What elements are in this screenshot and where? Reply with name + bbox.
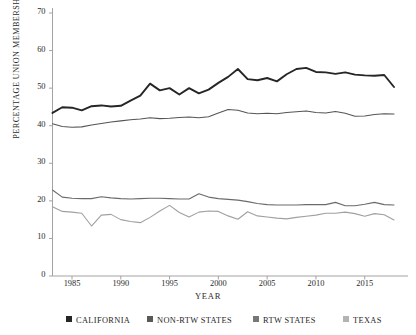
x-tick-label: 1995 [150,279,190,288]
legend-label: RTW STATES [263,316,316,325]
x-tick-label: 1990 [101,279,141,288]
legend-item-rtw-states[interactable]: RTW STATES [253,316,316,325]
y-tick-label: 60 [20,45,46,54]
y-tick-label: 50 [20,82,46,91]
series-line-rtw-states [53,190,395,206]
legend-swatch-icon [343,316,349,322]
x-tick-label: 2000 [198,279,238,288]
y-tick-label: 0 [20,270,46,279]
legend-item-texas[interactable]: TEXAS [343,316,382,325]
x-tick-label: 2015 [345,279,385,288]
series-line-texas [53,205,395,226]
x-tick-label: 2010 [296,279,336,288]
y-tick-label: 10 [20,232,46,241]
chart-legend: CALIFORNIANON-RTW STATESRTW STATESTEXAS [0,316,416,332]
chart-figure: PERCENTAGE UNION MEMBERSHIP YEAR 0102030… [0,0,416,335]
series-line-non-rtw-states [53,110,395,128]
legend-swatch-icon [253,316,259,322]
legend-label: TEXAS [353,316,382,325]
legend-swatch-icon [147,316,153,322]
x-tick-label: 1985 [52,279,92,288]
y-tick-label: 40 [20,120,46,129]
legend-swatch-icon [66,316,72,322]
y-tick-label: 30 [20,157,46,166]
y-tick-label: 70 [20,7,46,16]
legend-label: NON-RTW STATES [157,316,232,325]
y-tick-label: 20 [20,195,46,204]
legend-item-non-rtw-states[interactable]: NON-RTW STATES [147,316,232,325]
series-line-california [53,68,395,113]
legend-item-california[interactable]: CALIFORNIA [66,316,130,325]
legend-label: CALIFORNIA [76,316,130,325]
x-tick-label: 2005 [247,279,287,288]
